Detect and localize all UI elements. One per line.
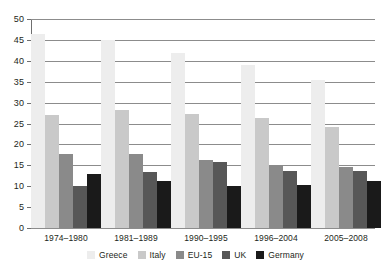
plot-area: 05101520253035404550 1974–19801981–19891… [31, 19, 375, 228]
chart-legend: GreeceItalyEU-15UKGermany [0, 250, 391, 260]
gridline [31, 228, 375, 229]
bar-greece [311, 80, 325, 228]
bar-eu-15 [199, 160, 213, 228]
legend-item-uk[interactable]: UK [222, 250, 246, 260]
legend-item-greece[interactable]: Greece [87, 250, 127, 260]
y-axis-tick [27, 228, 31, 229]
legend-label: EU-15 [188, 250, 213, 260]
bar-set [171, 19, 241, 228]
bar-italy [45, 115, 59, 228]
y-axis-tick-label: 0 [19, 223, 24, 233]
legend-swatch [256, 251, 264, 259]
legend-swatch [176, 251, 184, 259]
legend-item-germany[interactable]: Germany [256, 250, 304, 260]
bar-group: 1996–2004 [241, 19, 311, 228]
bar-greece [101, 40, 115, 228]
bar-set [101, 19, 171, 228]
bar-uk [213, 162, 227, 228]
x-axis-tick-label: 1974–1980 [44, 233, 87, 243]
bar-italy [115, 110, 129, 228]
x-axis-tick-label: 1990–1995 [184, 233, 227, 243]
legend-label: Italy [150, 250, 166, 260]
bar-chart: 05101520253035404550 1974–19801981–19891… [0, 0, 391, 274]
legend-item-eu-15[interactable]: EU-15 [176, 250, 213, 260]
legend-swatch [138, 251, 146, 259]
y-axis-tick-label: 5 [19, 202, 24, 212]
legend-item-italy[interactable]: Italy [138, 250, 166, 260]
bar-greece [31, 34, 45, 228]
y-axis-tick-label: 40 [14, 56, 24, 66]
y-axis-tick-label: 30 [14, 98, 24, 108]
bar-set [31, 19, 101, 228]
bar-germany [367, 181, 381, 228]
x-axis-tick-label: 2005–2008 [324, 233, 367, 243]
bar-set [241, 19, 311, 228]
bar-germany [297, 185, 311, 228]
y-axis-tick-label: 45 [14, 35, 24, 45]
bar-eu-15 [339, 167, 353, 228]
legend-label: UK [234, 250, 246, 260]
bar-greece [241, 65, 255, 228]
bar-group: 2005–2008 [311, 19, 381, 228]
bar-uk [353, 171, 367, 228]
bar-uk [283, 171, 297, 228]
y-axis-tick-label: 25 [14, 119, 24, 129]
bar-group: 1990–1995 [171, 19, 241, 228]
y-axis-tick-label: 50 [14, 14, 24, 24]
bar-italy [325, 127, 339, 228]
bar-eu-15 [269, 165, 283, 228]
legend-swatch [222, 251, 230, 259]
bar-germany [157, 181, 171, 228]
bar-germany [227, 186, 241, 228]
y-axis-tick-label: 35 [14, 77, 24, 87]
bar-eu-15 [59, 154, 73, 228]
bar-italy [255, 118, 269, 228]
y-axis-tick-label: 20 [14, 139, 24, 149]
x-axis-tick-label: 1981–1989 [114, 233, 157, 243]
bar-greece [171, 53, 185, 228]
x-axis-tick-label: 1996–2004 [254, 233, 297, 243]
legend-label: Germany [268, 250, 304, 260]
legend-label: Greece [99, 250, 127, 260]
bar-group: 1974–1980 [31, 19, 101, 228]
bar-groups: 1974–19801981–19891990–19951996–20042005… [31, 19, 375, 228]
bar-germany [87, 174, 101, 228]
bar-italy [185, 114, 199, 228]
y-axis-tick-label: 15 [14, 160, 24, 170]
bar-group: 1981–1989 [101, 19, 171, 228]
bar-eu-15 [129, 154, 143, 228]
bar-uk [73, 186, 87, 228]
bar-set [311, 19, 381, 228]
legend-swatch [87, 251, 95, 259]
bar-uk [143, 172, 157, 228]
y-axis-tick-label: 10 [14, 181, 24, 191]
